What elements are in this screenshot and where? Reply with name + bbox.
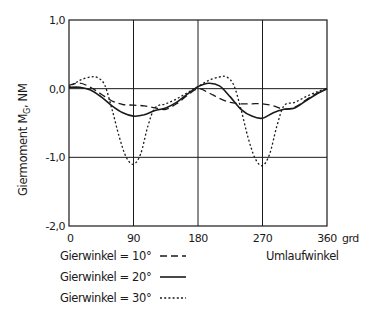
- x-tick-label: 0: [67, 232, 74, 245]
- x-tick-label: 360: [317, 232, 337, 245]
- x-tick-label: 90: [127, 232, 140, 245]
- x-tick-label: 180: [188, 232, 208, 245]
- x-axis-label: Umlaufwinkel: [266, 249, 339, 263]
- grid-lines: [69, 20, 327, 226]
- y-axis-label: Giermoment MG, NM: [16, 83, 32, 196]
- legend-item-label: Gierwinkel = 30°: [60, 291, 151, 305]
- x-axis-ticks: 090180270360: [67, 232, 337, 245]
- x-tick-label: 270: [253, 232, 273, 245]
- x-axis-unit: grd: [342, 232, 359, 245]
- y-tick-label: -1,0: [46, 151, 66, 164]
- y-axis-ticks: 1,00,0-1,0-2,0: [46, 14, 66, 233]
- y-tick-label: 1,0: [49, 14, 65, 27]
- legend: Gierwinkel = 10°Gierwinkel = 20°Gierwink…: [60, 249, 186, 305]
- y-tick-label: 0,0: [49, 83, 65, 96]
- giermoment-chart: 1,00,0-1,0-2,0 090180270360 Giermoment M…: [0, 0, 374, 312]
- legend-item-label: Gierwinkel = 20°: [60, 270, 151, 284]
- legend-item-label: Gierwinkel = 10°: [60, 249, 151, 263]
- y-tick-label: -2,0: [46, 220, 66, 233]
